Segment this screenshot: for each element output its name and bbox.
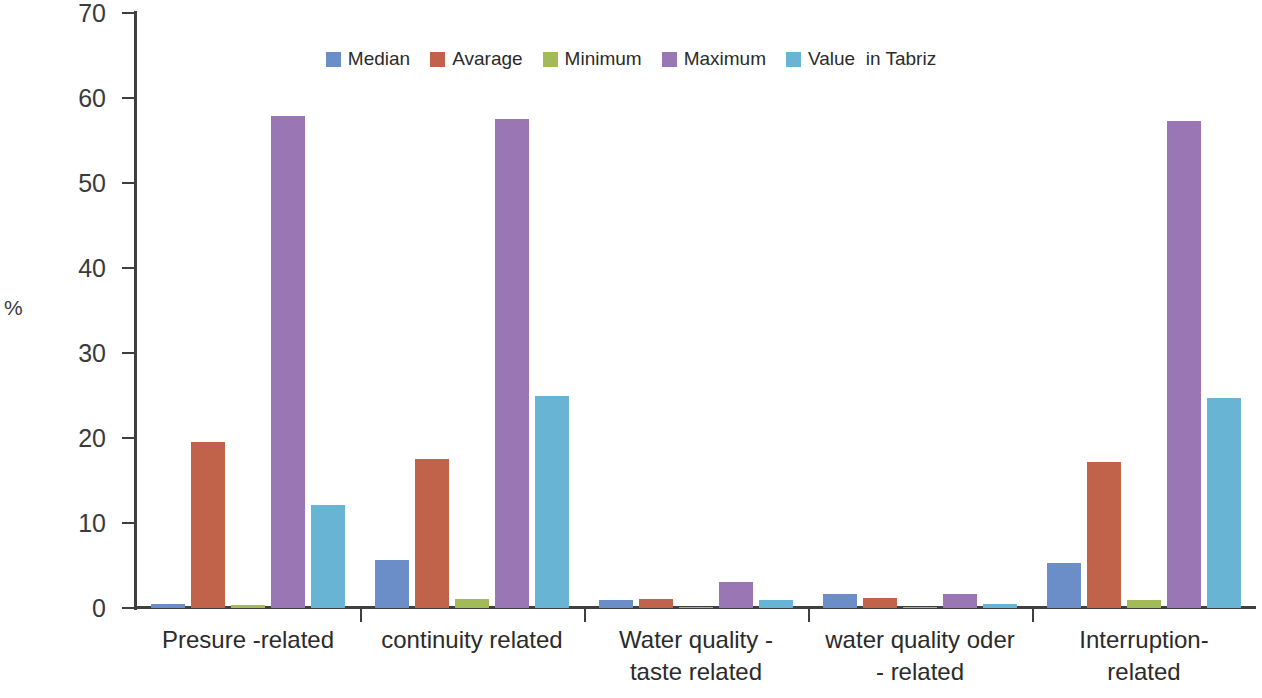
y-tick-mark bbox=[122, 97, 134, 99]
bar bbox=[191, 442, 225, 608]
y-tick-label: 20 bbox=[0, 426, 118, 451]
bar-group bbox=[136, 13, 360, 608]
x-axis-label: water quality oder- related bbox=[808, 624, 1032, 698]
bar bbox=[759, 600, 793, 608]
category-separator bbox=[584, 608, 586, 622]
x-axis-label: Presure -related bbox=[136, 624, 360, 698]
bar bbox=[679, 607, 713, 608]
bar bbox=[151, 604, 185, 608]
y-tick-mark bbox=[122, 437, 134, 439]
bar bbox=[863, 598, 897, 608]
bar bbox=[231, 605, 265, 608]
bar-group bbox=[1032, 13, 1256, 608]
y-tick-label: 60 bbox=[0, 86, 118, 111]
y-tick-label: 10 bbox=[0, 511, 118, 536]
x-axis-labels: Presure -relatedcontinuity relatedWater … bbox=[136, 624, 1256, 698]
bar bbox=[719, 582, 753, 608]
bar bbox=[1207, 398, 1241, 608]
bar bbox=[599, 600, 633, 608]
x-axis-label: Interruption-related bbox=[1032, 624, 1256, 698]
y-tick-mark bbox=[122, 352, 134, 354]
bar bbox=[375, 560, 409, 608]
y-tick-label: 0 bbox=[0, 596, 118, 621]
bar-groups bbox=[136, 13, 1256, 608]
y-axis-ticks: 706050403020100 bbox=[0, 0, 118, 698]
bar bbox=[495, 119, 529, 608]
y-tick-label: 40 bbox=[0, 256, 118, 281]
bar bbox=[639, 599, 673, 608]
y-tick-label: 30 bbox=[0, 341, 118, 366]
bar bbox=[1047, 563, 1081, 608]
bar bbox=[983, 604, 1017, 608]
bar bbox=[1167, 121, 1201, 608]
y-tick-mark bbox=[122, 522, 134, 524]
bar-group bbox=[360, 13, 584, 608]
bar bbox=[903, 607, 937, 608]
bar bbox=[311, 505, 345, 608]
bar bbox=[823, 594, 857, 608]
bar-chart: % 706050403020100 MedianAvarageMinimumMa… bbox=[0, 0, 1262, 698]
x-axis-label: continuity related bbox=[360, 624, 584, 698]
bar-group bbox=[584, 13, 808, 608]
y-tick-mark bbox=[122, 12, 134, 14]
bar bbox=[1087, 462, 1121, 608]
bar bbox=[1127, 600, 1161, 609]
bar bbox=[271, 116, 305, 608]
y-tick-label: 70 bbox=[0, 1, 118, 26]
category-separator bbox=[360, 608, 362, 622]
bar-group bbox=[808, 13, 1032, 608]
plot-area bbox=[136, 13, 1256, 608]
category-separator bbox=[1032, 608, 1034, 622]
y-tick-mark bbox=[122, 267, 134, 269]
x-axis-label: Water quality -taste related bbox=[584, 624, 808, 698]
bar bbox=[535, 396, 569, 609]
y-tick-mark bbox=[122, 607, 134, 609]
category-separator bbox=[808, 608, 810, 622]
bar bbox=[455, 599, 489, 608]
bar bbox=[943, 594, 977, 608]
bar bbox=[415, 459, 449, 608]
y-tick-mark bbox=[122, 182, 134, 184]
y-tick-label: 50 bbox=[0, 171, 118, 196]
